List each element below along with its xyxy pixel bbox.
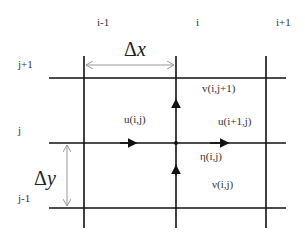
delta-y-symbol: Δ <box>34 167 47 189</box>
v-top-label: v(i,j+1) <box>202 82 235 94</box>
column-label-i+1: i+1 <box>276 16 291 28</box>
eta-label: η(i,j) <box>200 150 222 162</box>
delta-y-var: y <box>47 167 56 189</box>
u-right-label: u(i+1,j) <box>218 115 251 127</box>
row-label-j: j <box>18 124 21 136</box>
u-left-label: u(i,j) <box>124 113 146 125</box>
delta-x-var: x <box>137 38 146 60</box>
column-label-i: i <box>196 16 199 28</box>
delta-y-label: Δy <box>34 167 56 189</box>
nu-label: ν(i,j) <box>212 178 233 190</box>
delta-x-label: Δx <box>124 38 146 60</box>
grid-node <box>174 141 178 145</box>
row-label-j+1: j+1 <box>18 58 33 70</box>
delta-x-symbol: Δ <box>124 38 137 60</box>
row-label-j-1: j-1 <box>18 192 30 204</box>
staggered-grid-diagram <box>0 0 305 238</box>
column-label-i-1: i-1 <box>97 16 109 28</box>
